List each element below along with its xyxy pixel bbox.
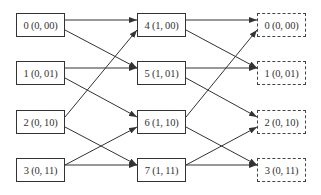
node-left-3: 3 (0, 11) — [16, 158, 65, 182]
node-left-1: 1 (0, 01) — [16, 61, 65, 85]
node-right-0: 0 (0, 00) — [257, 13, 306, 37]
edge-L1-M6 — [65, 78, 137, 117]
edge-M5-R2 — [186, 78, 257, 117]
node-middle-5: 5 (1, 01) — [137, 61, 186, 85]
node-middle-7: 7 (1, 11) — [137, 158, 186, 182]
node-right-1: 1 (0, 01) — [257, 61, 306, 85]
node-right-2: 2 (0, 10) — [257, 110, 306, 134]
edge-L2-M4 — [65, 30, 137, 117]
node-right-3: 3 (0, 11) — [257, 158, 306, 182]
edge-L0-M5 — [65, 30, 137, 68]
node-left-0: 0 (0, 00) — [16, 13, 65, 37]
node-middle-4: 4 (1, 00) — [137, 13, 186, 37]
edge-M6-R0 — [186, 30, 257, 117]
node-left-2: 2 (0, 10) — [16, 110, 65, 134]
edge-M4-R1 — [186, 30, 257, 68]
node-middle-6: 6 (1, 10) — [137, 110, 186, 134]
